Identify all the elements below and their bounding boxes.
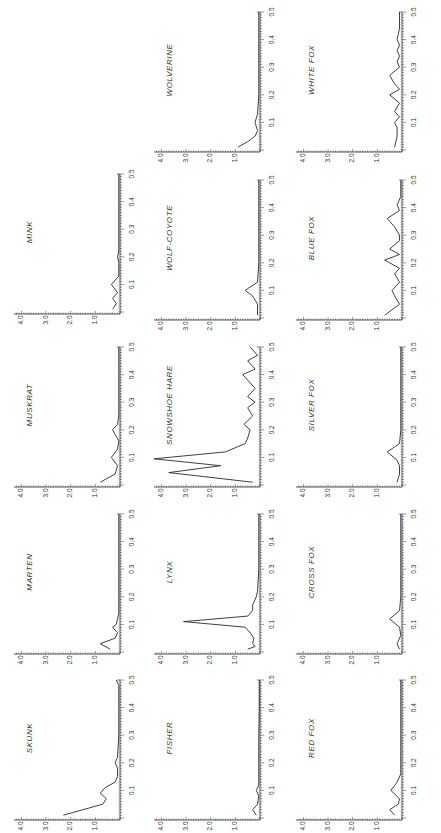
panel-marten: 1.02.03.04.00.10.20.30.40.5MARTEN xyxy=(0,502,160,671)
frequency-tick-label: 0.1 xyxy=(410,453,417,462)
panel-title: BLUE FOX xyxy=(307,216,316,260)
value-tick-label: 3.0 xyxy=(182,655,189,664)
value-tick-label: 1.0 xyxy=(373,321,380,330)
value-tick-label: 2.0 xyxy=(206,488,213,497)
frequency-tick-label: 0.2 xyxy=(268,758,275,767)
value-tick-label: 4.0 xyxy=(157,821,164,830)
frequency-tick-label: 0.3 xyxy=(410,397,417,406)
frequency-tick-label: 0.1 xyxy=(128,620,135,629)
frequency-tick-label: 0.5 xyxy=(410,509,417,518)
frequency-tick-label: 0.1 xyxy=(410,118,417,127)
value-tick-label: 4.0 xyxy=(17,488,24,497)
value-tick-label: 4.0 xyxy=(299,821,306,830)
value-tick-label: 4.0 xyxy=(157,321,164,330)
spectrum-curve xyxy=(390,514,401,649)
value-tick-label: 4.0 xyxy=(299,153,306,162)
value-tick-label: 1.0 xyxy=(91,655,98,664)
frequency-tick-label: 0.1 xyxy=(128,280,135,289)
panel-red-fox: 1.02.03.04.00.10.20.30.40.5RED FOX xyxy=(282,668,441,833)
frequency-tick-label: 0.5 xyxy=(128,169,135,178)
value-tick-label: 2.0 xyxy=(66,655,73,664)
frequency-tick-label: 0.5 xyxy=(128,675,135,684)
frequency-tick-label: 0.5 xyxy=(268,675,275,684)
spectrum-curve xyxy=(390,12,400,147)
frequency-tick-label: 0.2 xyxy=(410,592,417,601)
frequency-tick-label: 0.1 xyxy=(268,286,275,295)
frequency-tick-label: 0.4 xyxy=(128,537,135,546)
frequency-tick-label: 0.4 xyxy=(410,35,417,44)
value-tick-label: 1.0 xyxy=(91,821,98,830)
frequency-tick-label: 0.3 xyxy=(128,224,135,233)
value-tick-label: 2.0 xyxy=(206,153,213,162)
value-tick-label: 3.0 xyxy=(324,321,331,330)
panel-title: SILVER FOX xyxy=(307,379,316,432)
panel-cross-fox: 1.02.03.04.00.10.20.30.40.5CROSS FOX xyxy=(282,502,441,671)
frequency-tick-label: 0.2 xyxy=(128,252,135,261)
value-tick-label: 2.0 xyxy=(348,488,355,497)
value-tick-label: 2.0 xyxy=(206,821,213,830)
value-tick-label: 3.0 xyxy=(182,821,189,830)
frequency-tick-label: 0.1 xyxy=(268,118,275,127)
frequency-tick-label: 0.1 xyxy=(128,786,135,795)
value-tick-label: 1.0 xyxy=(373,655,380,664)
frequency-tick-label: 0.5 xyxy=(410,7,417,16)
value-tick-label: 1.0 xyxy=(231,655,238,664)
spectrum-curve xyxy=(245,180,259,315)
frequency-tick-label: 0.3 xyxy=(268,730,275,739)
frequency-tick-label: 0.3 xyxy=(268,62,275,71)
frequency-tick-label: 0.5 xyxy=(268,7,275,16)
panel-wolverine: 1.02.03.04.00.10.20.30.40.5WOLVERINE xyxy=(140,0,300,169)
frequency-tick-label: 0.4 xyxy=(410,537,417,546)
frequency-tick-label: 0.1 xyxy=(268,786,275,795)
frequency-tick-label: 0.4 xyxy=(128,703,135,712)
value-tick-label: 2.0 xyxy=(206,321,213,330)
frequency-tick-label: 0.3 xyxy=(128,730,135,739)
frequency-tick-label: 0.3 xyxy=(128,397,135,406)
value-tick-label: 1.0 xyxy=(91,488,98,497)
spectrum-curve xyxy=(63,680,119,815)
value-tick-label: 3.0 xyxy=(42,821,49,830)
panel-title: MUSKRAT xyxy=(25,383,34,426)
frequency-tick-label: 0.2 xyxy=(410,425,417,434)
frequency-tick-label: 0.2 xyxy=(268,90,275,99)
frequency-tick-label: 0.1 xyxy=(410,786,417,795)
frequency-tick-label: 0.2 xyxy=(268,425,275,434)
frequency-tick-label: 0.4 xyxy=(128,370,135,379)
value-tick-label: 1.0 xyxy=(373,488,380,497)
panel-title: CROSS FOX xyxy=(307,546,316,599)
frequency-tick-label: 0.4 xyxy=(268,35,275,44)
value-tick-label: 2.0 xyxy=(348,321,355,330)
frequency-tick-label: 0.5 xyxy=(410,675,417,684)
value-tick-label: 2.0 xyxy=(66,488,73,497)
frequency-tick-label: 0.3 xyxy=(128,564,135,573)
frequency-tick-label: 0.5 xyxy=(128,342,135,351)
value-tick-label: 4.0 xyxy=(17,315,24,324)
panel-title: MINK xyxy=(25,221,34,243)
value-tick-label: 2.0 xyxy=(66,315,73,324)
spectrum-curve xyxy=(100,347,119,482)
frequency-tick-label: 0.5 xyxy=(268,509,275,518)
value-tick-label: 4.0 xyxy=(157,153,164,162)
panel-white-fox: 1.02.03.04.00.10.20.30.40.5WHITE FOX xyxy=(282,0,441,169)
spectrum-curve xyxy=(387,347,401,482)
value-tick-label: 3.0 xyxy=(324,655,331,664)
frequency-tick-label: 0.1 xyxy=(410,286,417,295)
frequency-tick-label: 0.5 xyxy=(268,175,275,184)
panel-title: WOLVERINE xyxy=(165,43,174,96)
spectrum-curve xyxy=(111,174,118,309)
value-tick-label: 3.0 xyxy=(42,488,49,497)
value-tick-label: 4.0 xyxy=(299,488,306,497)
frequency-tick-label: 0.4 xyxy=(268,537,275,546)
frequency-tick-label: 0.5 xyxy=(410,342,417,351)
value-tick-label: 3.0 xyxy=(42,315,49,324)
value-tick-label: 4.0 xyxy=(157,488,164,497)
panel-title: WHITE FOX xyxy=(307,45,316,95)
frequency-tick-label: 0.1 xyxy=(268,453,275,462)
value-tick-label: 1.0 xyxy=(373,153,380,162)
frequency-tick-label: 0.3 xyxy=(268,230,275,239)
value-tick-label: 4.0 xyxy=(299,655,306,664)
frequency-tick-label: 0.1 xyxy=(410,620,417,629)
frequency-tick-label: 0.1 xyxy=(128,453,135,462)
frequency-tick-label: 0.2 xyxy=(410,758,417,767)
frequency-tick-label: 0.4 xyxy=(410,370,417,379)
